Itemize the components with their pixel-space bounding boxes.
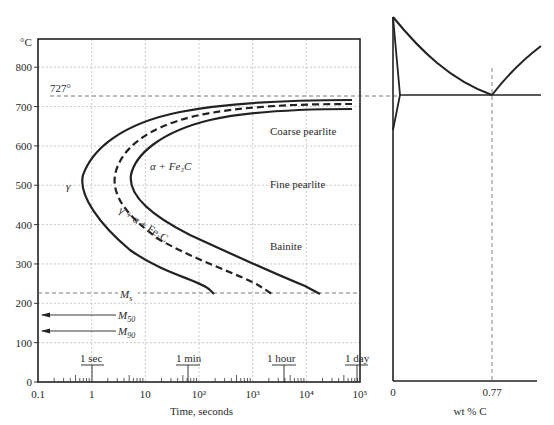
time-marker-min: 1 min: [176, 352, 202, 382]
pd-a3-curve: [393, 17, 492, 95]
y-tick-label: 100: [16, 337, 33, 349]
pd-x-tick-077: 0.77: [482, 386, 502, 398]
x-axis-tick-labels: 0.111010²10³10⁴10⁵: [31, 388, 367, 400]
m90-label: M90: [117, 325, 135, 340]
alpha-fe3c-label: α + Fe₃C: [150, 160, 192, 172]
pd-x-tick-0: 0: [390, 386, 396, 398]
y-tick-label: 500: [16, 179, 33, 191]
svg-text:1 sec: 1 sec: [80, 352, 102, 364]
y-tick-label: 300: [16, 258, 33, 270]
m50-label: M50: [117, 309, 135, 324]
gamma-label: γ: [66, 180, 71, 192]
m50-arrowhead-icon: [41, 313, 50, 318]
x-tick-label: 10: [140, 388, 152, 400]
figure-canvas: 0100200300400500600700800 0.111010²10³10…: [0, 0, 554, 425]
y-axis-tick-labels: 0100200300400500600700800: [16, 61, 33, 388]
bainite-label: Bainite: [270, 240, 302, 252]
x-tick-label: 1: [89, 388, 95, 400]
time-marker-sec: 1 sec: [80, 352, 104, 382]
y-axis-unit: °C: [20, 36, 32, 48]
x-axis-title: Time, seconds: [170, 405, 233, 417]
y-tick-label: 0: [27, 376, 33, 388]
m90-arrowhead-icon: [41, 329, 50, 334]
pd-acm-curve: [492, 46, 541, 95]
time-marker-day: 1 day: [345, 352, 370, 382]
pd-alpha-boundary: [393, 17, 400, 130]
coarse-pearlite-label: Coarse pearlite: [270, 125, 336, 137]
y-tick-label: 600: [16, 140, 33, 152]
y-tick-label: 400: [16, 219, 33, 231]
fine-pearlite-label: Fine pearlite: [270, 178, 325, 190]
svg-text:1 min: 1 min: [176, 352, 202, 364]
eutectoid-label: 727°: [50, 82, 71, 94]
pd-x-axis-title: wt % C: [454, 405, 487, 417]
x-tick-label: 10²: [192, 388, 207, 400]
svg-text:1 hour: 1 hour: [267, 352, 296, 364]
x-tick-label: 10⁴: [299, 388, 314, 400]
y-tick-label: 700: [16, 101, 33, 113]
phase-diagram: 0 0.77 wt % C: [390, 17, 541, 417]
x-tick-label: 10⁵: [353, 388, 368, 400]
y-tick-label: 200: [16, 297, 33, 309]
x-tick-label: 0.1: [31, 388, 45, 400]
mixed-phase-label: γ + α + Fe₃C: [116, 203, 171, 244]
time-marker-hour: 1 hour: [267, 352, 296, 382]
y-tick-label: 800: [16, 61, 33, 73]
ttt-figure: 0100200300400500600700800 0.111010²10³10…: [0, 0, 554, 425]
svg-text:1 day: 1 day: [345, 352, 370, 364]
x-tick-label: 10³: [246, 388, 261, 400]
